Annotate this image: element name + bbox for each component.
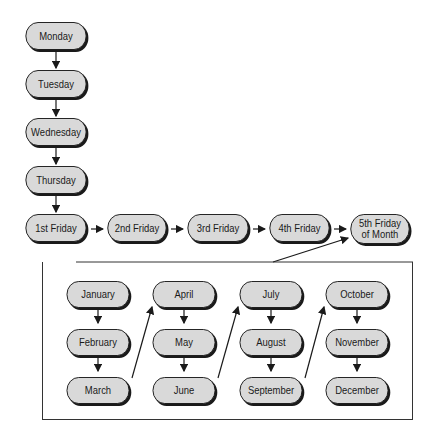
node-3rd-friday: 3rd Friday [187,214,248,242]
node-label: 4th Friday [278,223,320,234]
node-label: April [175,289,194,300]
node-label: September [248,385,294,396]
node-label: 3rd Friday [197,223,240,234]
node-thursday: Thursday [25,166,86,194]
node-march: March [67,377,130,404]
node-june: June [153,377,216,404]
node-july: July [240,281,303,308]
node-label: Wednesday [31,127,81,138]
node-january: January [67,281,130,308]
node-label: 1st Friday [35,223,76,234]
node-label: August [256,337,285,348]
node-august: August [240,329,303,356]
node-label: 2nd Friday [115,223,160,234]
node-february: February [67,329,130,356]
node-monday: Monday [25,22,86,50]
node-label: June [174,385,195,396]
node-october: October [326,281,389,308]
node-4th-friday: 4th Friday [269,214,329,242]
node-wednesday: Wednesday [25,118,86,146]
node-tuesday: Tuesday [25,70,86,98]
node-may: May [153,329,216,356]
node-label: March [85,385,111,396]
node-september: September [240,377,303,404]
node-1st-friday: 1st Friday [25,214,86,242]
node-2nd-friday: 2nd Friday [107,214,166,242]
node-label: July [263,289,280,300]
node-5th-friday: 5th Friday of Month [350,214,409,244]
node-label: November [335,337,379,348]
node-label: Thursday [36,175,75,186]
node-december: December [326,377,389,404]
node-label: Tuesday [38,79,74,90]
node-label: December [335,385,379,396]
node-label: January [81,289,115,300]
node-april: April [153,281,216,308]
node-label: October [340,289,374,300]
node-label: May [175,337,193,348]
node-november: November [326,329,389,356]
node-label: Monday [39,31,73,42]
node-label: 5th Friday of Month [359,218,401,240]
node-label: February [79,337,117,348]
